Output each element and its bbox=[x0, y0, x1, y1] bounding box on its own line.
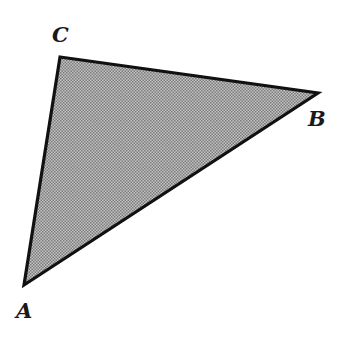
triangle-abc bbox=[24, 57, 318, 285]
vertex-label-c: C bbox=[52, 22, 69, 47]
vertex-label-b: B bbox=[307, 106, 326, 131]
triangle-diagram: C B A bbox=[0, 0, 346, 341]
vertex-label-a: A bbox=[14, 298, 32, 323]
